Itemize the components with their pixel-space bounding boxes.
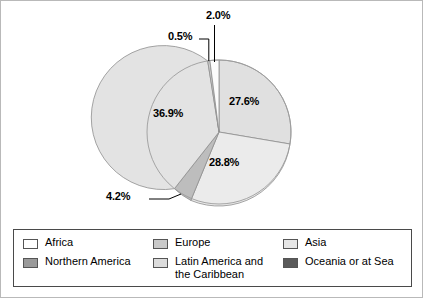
legend-item-europe[interactable]: Europe: [153, 236, 283, 251]
legend-label-asia: Asia: [305, 236, 326, 249]
legend-item-oceania[interactable]: Oceania or at Sea: [283, 255, 405, 270]
pie-value-label-northern-america: 2.0%: [206, 9, 230, 21]
legend-column-1: Africa Northern America: [23, 236, 153, 285]
legend-label-latin-america: Latin America and the Caribbean: [175, 255, 263, 281]
legend-swatch-latin-america: [153, 258, 168, 268]
legend-item-latin-america[interactable]: Latin America and the Caribbean: [153, 255, 283, 281]
pie-value-label-africa: 36.9%: [153, 107, 183, 119]
legend-swatch-asia: [283, 239, 298, 249]
pie-value-label-latin-america: 28.8%: [209, 156, 239, 168]
figure-frame: 27.6% 28.8% 36.9% 2.0% 0.5% 4.2% Africa …: [0, 0, 423, 298]
legend-columns: Africa Northern America Europe Latin Ame…: [23, 236, 405, 285]
legend-item-africa[interactable]: Africa: [23, 236, 153, 251]
pie-value-label-oceania: 0.5%: [168, 30, 192, 42]
leader-line-europe: [149, 194, 181, 199]
legend-item-northern-america[interactable]: Northern America: [23, 255, 153, 270]
legend-label-europe: Europe: [175, 236, 210, 249]
pie-chart-svg: [1, 1, 423, 219]
legend-item-asia[interactable]: Asia: [283, 236, 405, 251]
chart-legend: Africa Northern America Europe Latin Ame…: [13, 229, 412, 287]
legend-column-3: Asia Oceania or at Sea: [283, 236, 405, 285]
legend-label-africa: Africa: [45, 236, 73, 249]
pie-chart-area: 27.6% 28.8% 36.9% 2.0% 0.5% 4.2%: [1, 1, 423, 219]
legend-label-oceania: Oceania or at Sea: [305, 255, 394, 268]
legend-swatch-africa: [23, 239, 38, 249]
legend-label-northern-america: Northern America: [45, 255, 131, 268]
legend-column-2: Europe Latin America and the Caribbean: [153, 236, 283, 285]
legend-swatch-europe: [153, 239, 168, 249]
pie-value-label-europe: 4.2%: [106, 190, 130, 202]
legend-swatch-northern-america: [23, 258, 38, 268]
pie-value-label-asia: 27.6%: [229, 95, 259, 107]
legend-swatch-oceania: [283, 258, 298, 268]
